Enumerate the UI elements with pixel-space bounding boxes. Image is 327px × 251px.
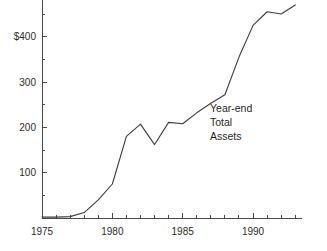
series-annotation: Year-end Total Assets [210,102,252,142]
x-axis-tick-labels: 1975198019851990 [31,226,265,237]
x-axis-tick-label: 1975 [31,226,54,237]
x-axis-tick-label: 1985 [172,226,195,237]
y-axis: 100200300$400 [14,0,47,218]
annotation-line-1: Year-end [210,102,252,114]
chart-container: 100200300$400 1975198019851990 Year-end … [0,0,327,251]
y-axis-tick-labels: 100200300$400 [14,31,37,178]
annotation-line-3: Assets [210,130,242,142]
line-chart: 100200300$400 1975198019851990 Year-end … [0,0,327,251]
plot-area [42,5,295,217]
y-axis-tick-label: 100 [19,167,36,178]
y-axis-tick-label: $400 [14,31,37,42]
y-axis-tick-label: 200 [19,122,36,133]
data-series-line [42,5,295,217]
annotation-line-2: Total [210,116,232,128]
x-axis-tick-label: 1980 [101,226,124,237]
y-axis-tick-label: 300 [19,77,36,88]
x-axis-tick-label: 1990 [242,226,265,237]
